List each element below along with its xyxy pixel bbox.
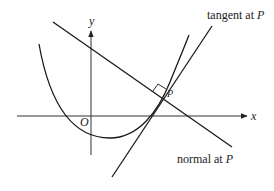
curve (39, 35, 189, 138)
tangent-label-text: tangent at (207, 8, 257, 22)
tangent-label: tangent at P (207, 8, 265, 22)
origin-label: O (80, 115, 89, 129)
normal-label-text: normal at (177, 152, 226, 166)
diagram-canvas: y x O P tangent at P normal at P (0, 0, 274, 191)
right-angle-marker (153, 84, 166, 91)
tangent-label-point: P (256, 8, 265, 22)
point-p-label: P (166, 88, 173, 99)
normal-label: normal at P (177, 152, 234, 166)
x-axis-label: x (250, 109, 257, 123)
normal-label-point: P (225, 152, 234, 166)
y-axis-label: y (88, 14, 95, 28)
